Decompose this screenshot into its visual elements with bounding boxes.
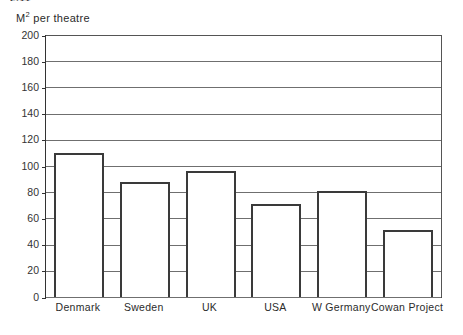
y-axis-tick-mark — [42, 193, 46, 194]
y-axis-tick-mark — [42, 219, 46, 220]
y-axis-tick-label: 20 — [27, 264, 39, 276]
y-axis-tick-label: 120 — [21, 133, 39, 145]
y-axis-tick-mark — [42, 62, 46, 63]
bar — [186, 171, 236, 297]
x-axis-label: UK — [202, 301, 217, 313]
y-axis-tick-label: 180 — [21, 55, 39, 67]
bar — [383, 230, 433, 297]
x-axis-label: Denmark — [56, 301, 101, 313]
y-axis-tick-mark — [42, 167, 46, 168]
x-axis-label: W Germany — [312, 301, 371, 313]
gridline-0: 0 — [46, 297, 441, 298]
gridline-140: 140 — [46, 114, 441, 115]
y-axis-unit-suffix: per theatre — [30, 12, 90, 24]
y-axis-tick-mark — [42, 298, 46, 299]
bar — [317, 191, 367, 297]
y-axis-tick-mark — [42, 114, 46, 115]
x-axis-label: USA — [264, 301, 287, 313]
x-axis-labels-group: DenmarkSwedenUKUSAW GermanyCowan Project — [45, 301, 440, 323]
gridline-80: 80 — [46, 192, 441, 193]
y-axis-tick-label: 0 — [33, 291, 39, 303]
gridline-60: 60 — [46, 218, 441, 219]
clipped-figure-number: 2.11 — [10, 0, 31, 1]
y-axis-tick-label: 140 — [21, 107, 39, 119]
gridline-120: 120 — [46, 140, 441, 141]
gridline-20: 20 — [46, 271, 441, 272]
y-axis-tick-label: 80 — [27, 186, 39, 198]
bar — [120, 182, 170, 297]
y-axis-tick-label: 40 — [27, 238, 39, 250]
gridline-100: 100 — [46, 166, 441, 167]
y-axis-tick-mark — [42, 88, 46, 89]
gridline-180: 180 — [46, 61, 441, 62]
gridline-40: 40 — [46, 245, 441, 246]
y-axis-tick-label: 60 — [27, 212, 39, 224]
y-axis-tick-mark — [42, 271, 46, 272]
y-axis-tick-label: 100 — [21, 160, 39, 172]
bar — [251, 204, 301, 297]
y-axis-unit-caption: M2 per theatre — [16, 12, 90, 24]
y-axis-tick-mark — [42, 140, 46, 141]
gridline-160: 160 — [46, 87, 441, 88]
plot-area: 020406080100120140160180200 — [45, 35, 442, 298]
y-axis-tick-label: 200 — [21, 29, 39, 41]
x-axis-label: Cowan Project — [371, 301, 443, 313]
x-axis-label: Sweden — [124, 301, 164, 313]
gridline-200: 200 — [46, 35, 441, 36]
bar-chart-figure: 2.11 M2 per theatre 02040608010012014016… — [0, 0, 463, 335]
bar — [54, 153, 104, 297]
y-axis-tick-label: 160 — [21, 81, 39, 93]
y-axis-tick-mark — [42, 36, 46, 37]
y-axis-tick-mark — [42, 245, 46, 246]
